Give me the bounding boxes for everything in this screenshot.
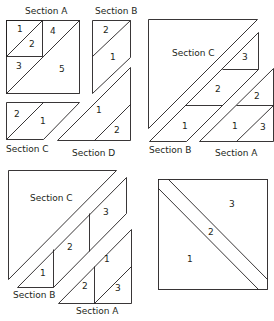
tl-a-piece-3: 3 bbox=[16, 61, 22, 71]
tr-a-piece-1: 1 bbox=[232, 121, 238, 131]
tr-section-a-label: Section A bbox=[215, 148, 258, 158]
br-piece-1: 1 bbox=[187, 254, 193, 264]
tl-a-piece-1: 1 bbox=[17, 24, 23, 34]
bl-b-piece-1: 1 bbox=[40, 268, 46, 278]
br-piece-2: 2 bbox=[208, 227, 214, 237]
panel-top-left: Section A 1 2 3 4 5 Section B 2 1 2 1 Se… bbox=[6, 6, 137, 158]
tr-section-a: 2 1 3 Section A bbox=[200, 69, 274, 159]
bl-section-c-label: Section C bbox=[30, 193, 73, 203]
br-piece-3: 3 bbox=[229, 199, 235, 209]
tr-section-c: Section C bbox=[149, 20, 258, 129]
tr-b-piece-1: 1 bbox=[182, 121, 188, 131]
tl-a-piece-2: 2 bbox=[29, 39, 35, 49]
tl-c-piece-2: 2 bbox=[14, 109, 20, 119]
tr-b-piece-2: 2 bbox=[215, 84, 221, 94]
tl-b-piece-2: 2 bbox=[103, 25, 109, 35]
piecing-diagram: Section A 1 2 3 4 5 Section B 2 1 2 1 Se… bbox=[0, 0, 274, 321]
tl-a-piece-5: 5 bbox=[59, 64, 65, 74]
bl-a-piece-1: 1 bbox=[104, 254, 110, 264]
tl-a-piece-4: 4 bbox=[50, 26, 56, 36]
tl-section-a-label: Section A bbox=[25, 6, 68, 16]
tl-section-b-label: Section B bbox=[95, 6, 137, 16]
tl-b-piece-1: 1 bbox=[110, 52, 116, 62]
tl-section-a: Section A 1 2 3 4 5 bbox=[7, 6, 80, 94]
tl-c-piece-1: 1 bbox=[40, 116, 46, 126]
bl-a-piece-3: 3 bbox=[115, 283, 121, 293]
bl-a-piece-2: 2 bbox=[82, 281, 88, 291]
tl-section-d-label: Section D bbox=[72, 148, 115, 158]
tl-d-piece-2: 2 bbox=[114, 125, 120, 135]
bl-b-piece-2: 2 bbox=[67, 242, 73, 252]
tl-section-c-label: Section C bbox=[6, 144, 49, 154]
bl-b-piece-3: 3 bbox=[103, 207, 109, 217]
tl-d-piece-1: 1 bbox=[96, 105, 102, 115]
tr-b-piece-3: 3 bbox=[242, 52, 248, 62]
tr-section-b-label: Section B bbox=[149, 145, 191, 155]
tl-section-d: 1 2 Section D bbox=[58, 68, 131, 159]
panel-bottom-right: 3 2 1 bbox=[159, 180, 268, 290]
tr-a-piece-3: 3 bbox=[260, 122, 266, 132]
tr-section-c-label: Section C bbox=[172, 48, 215, 58]
panel-top-right: Section C 3 2 1 Section B 2 1 3 Section … bbox=[149, 20, 274, 159]
bl-section-c: Section C bbox=[9, 171, 117, 280]
bl-section-a-label: Section A bbox=[76, 306, 119, 316]
tl-section-c: 2 1 Section C bbox=[6, 103, 80, 155]
bl-section-b-label: Section B bbox=[13, 290, 55, 300]
tr-a-piece-2: 2 bbox=[254, 91, 260, 101]
panel-bottom-left: Section C 1 2 3 Section B 1 2 3 Section … bbox=[9, 171, 132, 317]
